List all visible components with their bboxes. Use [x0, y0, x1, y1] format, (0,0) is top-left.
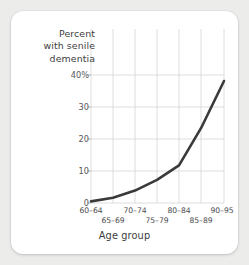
senile-dementia-line-chart: Percent with senile dementia 0 10 20 30 …	[11, 11, 238, 254]
x-tick-label-90-95: 90–95	[210, 206, 233, 215]
x-tick-label-80-84: 80–84	[167, 206, 190, 215]
x-axis-tick-labels: 60–64 65–69 70–74 75–79 80–84 85–89 90–9…	[11, 11, 238, 254]
x-tick-label-70-74: 70–74	[123, 206, 146, 215]
x-tick-label-75-79: 75–79	[145, 216, 168, 225]
x-axis-title: Age group	[11, 230, 238, 241]
figure-card: Percent with senile dementia 0 10 20 30 …	[11, 11, 238, 254]
x-tick-label-60-64: 60–64	[79, 206, 102, 215]
x-tick-label-65-69: 65–69	[101, 216, 124, 225]
x-tick-label-85-89: 85–89	[189, 216, 212, 225]
